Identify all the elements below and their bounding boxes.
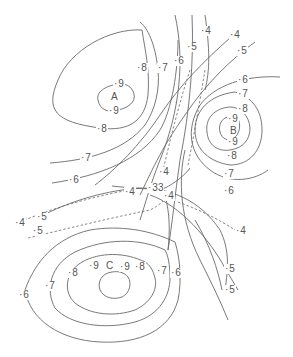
center-label-b: B <box>230 126 237 136</box>
contour-label: 4 <box>229 30 241 40</box>
contour-label: 4 <box>200 26 212 36</box>
contour-label: 8 <box>134 262 146 272</box>
contour-label: 9 <box>119 262 131 272</box>
contour-label: 8 <box>237 104 249 114</box>
contour-label: 4 <box>235 226 247 236</box>
contour-lines <box>0 0 293 357</box>
contour-label: 5 <box>224 285 236 295</box>
contour-label: 4 <box>124 187 136 197</box>
contour-label: 4 <box>158 167 170 177</box>
contour-label: 9 <box>108 106 120 116</box>
contour-c-9 <box>99 272 130 299</box>
contour-c-7 <box>50 241 170 325</box>
contour-label: 5 <box>224 264 236 274</box>
contour-label: 7 <box>156 266 168 276</box>
contour-label: 7 <box>223 169 235 179</box>
contour-label: 4 <box>163 191 175 201</box>
contour-label: 9 <box>227 137 239 147</box>
contour-label: 5 <box>32 226 44 236</box>
contour-label: 7 <box>237 89 249 99</box>
contour-mid-right <box>181 150 228 320</box>
contour-label: 8 <box>226 151 238 161</box>
contour-label: 9 <box>227 114 239 124</box>
contour-label: 33 <box>147 183 164 193</box>
center-label-a: A <box>111 92 118 102</box>
contour-label: 4 <box>14 218 26 228</box>
contour-label: 8 <box>96 124 108 134</box>
contour-label: 5 <box>36 212 48 222</box>
contour-label: 6 <box>170 268 182 278</box>
contour-dashed-upper-a <box>162 70 190 175</box>
contour-label: 9 <box>88 261 100 271</box>
contour-label: 5 <box>236 46 248 56</box>
contour-label: 6 <box>237 75 249 85</box>
contour-label: 9 <box>113 79 125 89</box>
contour-map: A B C 8 9 9 8 7 6 7 6 5 4 4 5 6 7 8 9 9 … <box>0 0 293 357</box>
contour-label: 7 <box>157 63 169 73</box>
contour-label: 6 <box>68 175 80 185</box>
contour-label: 5 <box>186 42 198 52</box>
center-label-c: C <box>106 261 113 271</box>
contour-label: 7 <box>44 281 56 291</box>
contour-label: 8 <box>67 268 79 278</box>
contour-label: 7 <box>80 153 92 163</box>
contour-label: 6 <box>173 56 185 66</box>
contour-label: 6 <box>223 186 235 196</box>
contour-left-7 <box>50 22 158 163</box>
contour-label: 8 <box>136 63 148 73</box>
contour-a-8 <box>53 30 149 129</box>
contour-label: 6 <box>18 290 30 300</box>
